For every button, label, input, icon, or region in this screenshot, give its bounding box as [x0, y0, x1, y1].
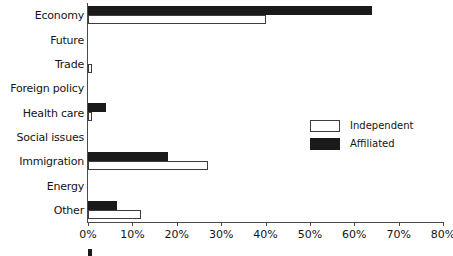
x-tick-mark [177, 222, 178, 226]
legend-swatch-independent [310, 120, 340, 132]
category-label-health-care: Health care [0, 108, 84, 119]
bar-independent-economy [88, 15, 266, 24]
category-label-other: Other [0, 205, 84, 216]
x-tick-mark [310, 222, 311, 226]
category-label-foreign-policy: Foreign policy [0, 83, 84, 94]
legend-entry-independent: Independent [310, 118, 450, 136]
bar-independent-future [88, 64, 92, 73]
x-tick-mark [221, 222, 222, 226]
legend-entry-affiliated: Affiliated [310, 136, 450, 154]
bar-independent-foreign-policy [88, 161, 208, 170]
bar-affiliated-foreign-policy [88, 152, 168, 161]
bar-affiliated-social-issues [88, 249, 92, 256]
x-tick-label: 80% [423, 229, 453, 241]
x-tick-label: 30% [201, 229, 241, 241]
category-label-future: Future [0, 35, 84, 46]
bar-independent-health-care [88, 210, 141, 219]
x-tick-label: 50% [290, 229, 330, 241]
x-tick-mark [266, 222, 267, 226]
category-label-trade: Trade [0, 59, 84, 70]
legend-label: Independent [350, 120, 413, 132]
bar-affiliated-health-care [88, 201, 117, 210]
x-tick-mark [443, 222, 444, 226]
bar-independent-trade [88, 112, 92, 121]
category-axis: EconomyFutureTradeForeign policyHealth c… [0, 3, 84, 222]
bar-affiliated-economy [88, 6, 372, 15]
x-tick-label: 70% [379, 229, 419, 241]
x-tick-label: 60% [334, 229, 374, 241]
legend-swatch-affiliated [310, 138, 340, 150]
category-label-social-issues: Social issues [0, 132, 84, 143]
category-label-economy: Economy [0, 10, 84, 21]
chart-legend: IndependentAffiliated [310, 118, 450, 154]
x-tick-mark [399, 222, 400, 226]
x-tick-label: 10% [112, 229, 152, 241]
bar-affiliated-trade [88, 103, 106, 112]
x-tick-mark [132, 222, 133, 226]
category-label-immigration: Immigration [0, 156, 84, 167]
x-tick-mark [354, 222, 355, 226]
x-tick-label: 20% [157, 229, 197, 241]
x-tick-label: 0% [68, 229, 108, 241]
category-label-energy: Energy [0, 181, 84, 192]
x-tick-mark [88, 222, 89, 226]
legend-label: Affiliated [350, 138, 395, 150]
plot-area: 0%10%20%30%40%50%60%70%80% [88, 3, 443, 222]
x-tick-label: 40% [246, 229, 286, 241]
bar-chart: EconomyFutureTradeForeign policyHealth c… [0, 0, 453, 256]
